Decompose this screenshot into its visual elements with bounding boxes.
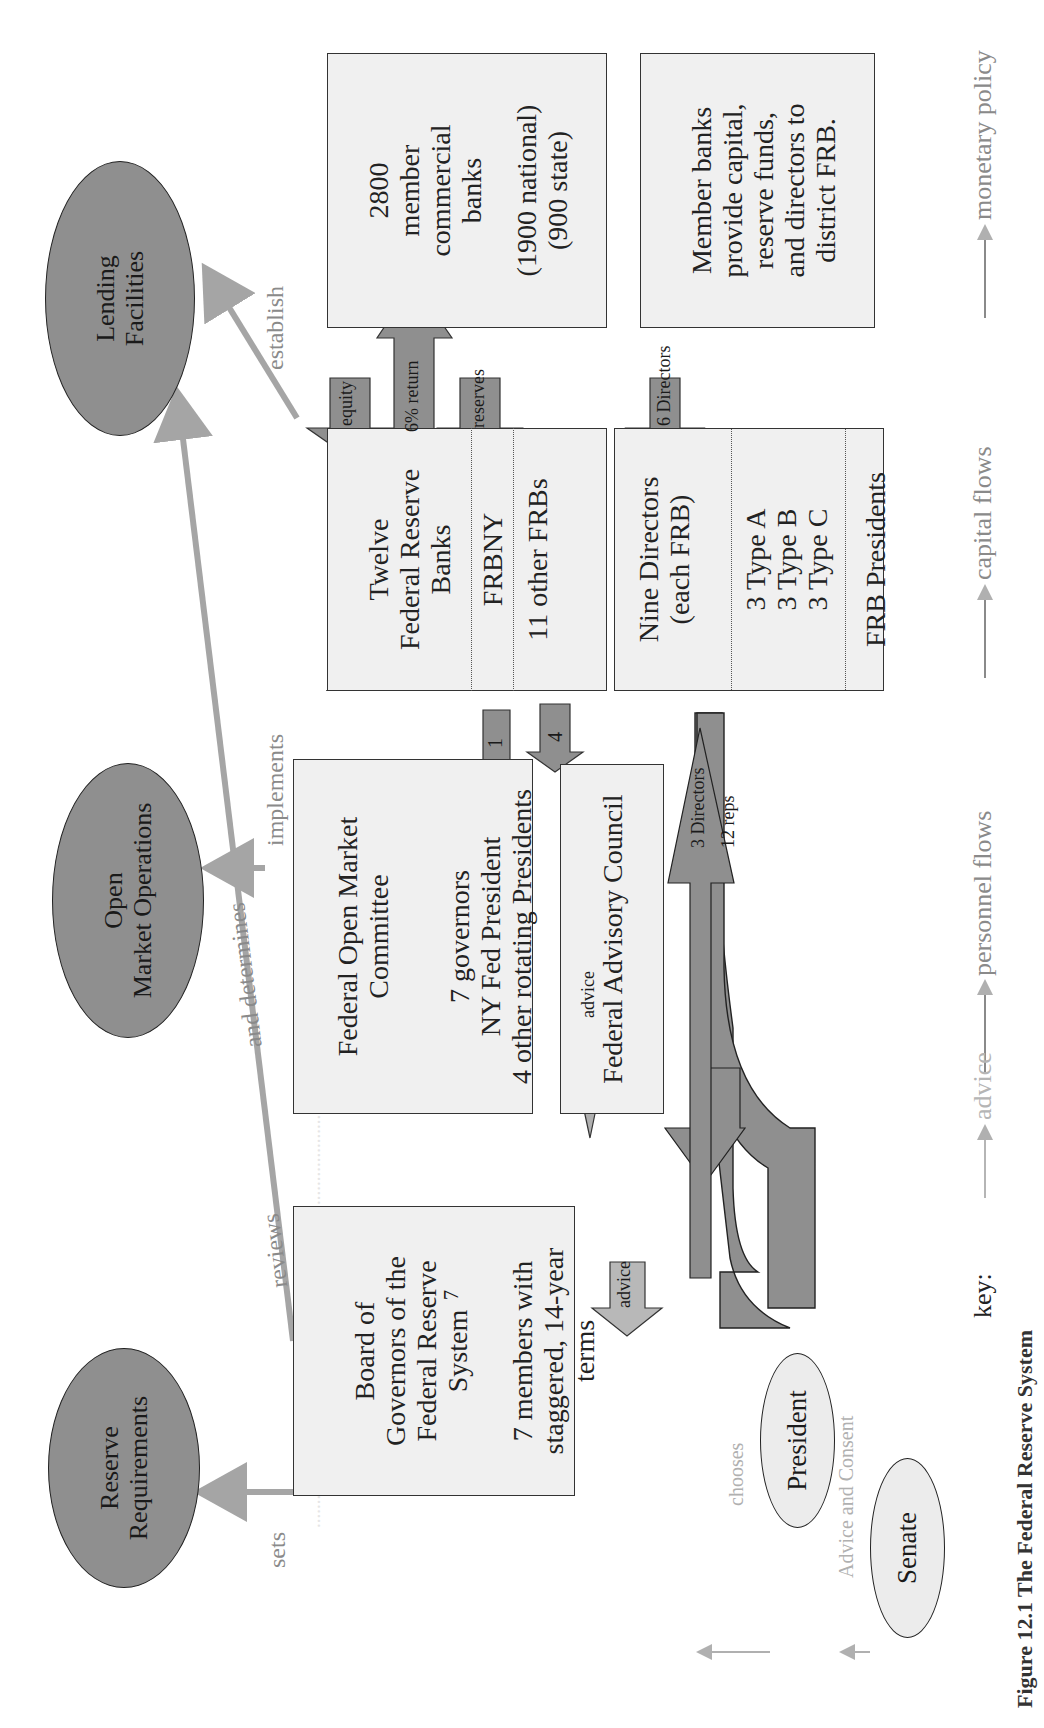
- member-note-line: district FRB.: [810, 54, 841, 327]
- fomc-title-line: Federal Open Market: [332, 760, 363, 1113]
- frb-subdivision-box: [327, 428, 607, 691]
- nine-directors-box: Nine Directors (each FRB) 3 Type A 3 Typ…: [614, 428, 884, 691]
- rotated-figure-page: ........................................…: [0, 0, 1044, 1728]
- fomc-detail-line: 7 governors: [444, 760, 475, 1113]
- reserve-requirements-ellipse: Reserve Requirements: [48, 1348, 200, 1588]
- board-title-line: Federal Reserve: [411, 1207, 442, 1495]
- directors-type-b: 3 Type B: [771, 429, 802, 690]
- member-banks-note-box: Member banks provide capital, reserve fu…: [640, 53, 875, 328]
- figure-caption: Figure 12.1 The Federal Reserve System: [1012, 1330, 1038, 1708]
- president-label: President: [782, 1390, 813, 1491]
- senate-ellipse: Senate: [870, 1458, 945, 1638]
- directors-title-line: Nine Directors: [633, 429, 664, 690]
- board-of-governors-box: Board of Governors of the Federal Reserv…: [293, 1206, 575, 1496]
- label-advice-fomc: advice: [578, 971, 599, 1018]
- member-banks-title-line: commercial: [425, 54, 456, 327]
- label-chooses: chooses: [725, 1443, 748, 1506]
- lending-facilities-ellipse: Lending Facilities: [45, 161, 195, 436]
- member-note-line: provide capital,: [717, 54, 748, 327]
- label-arrow-4: 4: [544, 732, 567, 742]
- board-detail-line: staggered, 14-year: [538, 1207, 569, 1495]
- label-reserves: reserves: [468, 369, 489, 428]
- member-note-line: and directors to: [779, 54, 810, 327]
- key-capital-label: capital flows: [968, 446, 998, 580]
- member-banks-detail-line: (900 state): [542, 54, 573, 327]
- lending-facilities-line-1: Lending: [91, 251, 120, 346]
- other-frbs-section: 11 other FRBs: [514, 428, 560, 691]
- federal-advisory-council-label: Federal Advisory Council: [597, 794, 628, 1083]
- label-arrow-1: 1: [484, 738, 507, 748]
- other-frbs-label: 11 other FRBs: [522, 478, 553, 640]
- member-banks-title-line: member: [394, 54, 425, 327]
- label-implements: implements: [262, 734, 289, 846]
- member-banks-title-line: 2800: [363, 54, 394, 327]
- label-establish: establish: [262, 286, 289, 370]
- fomc-detail-line: NY Fed President: [475, 760, 506, 1113]
- label-arrow-7: 7: [440, 1290, 463, 1300]
- open-market-operations-line-1: Open: [99, 803, 128, 999]
- open-market-operations-line-2: Market Operations: [128, 803, 157, 999]
- reserve-requirements-line-2: Requirements: [124, 1396, 153, 1540]
- label-six-directors: 6 Directors: [654, 346, 675, 426]
- key-title: key:: [968, 1273, 998, 1318]
- key-advice-label: advice: [968, 1052, 998, 1120]
- label-advice-and-consent: Advice and Consent: [835, 1416, 858, 1578]
- member-banks-detail-line: (1900 national): [511, 54, 542, 327]
- president-ellipse: President: [760, 1353, 835, 1528]
- directors-type-a: 3 Type A: [740, 429, 771, 690]
- fomc-detail-line: 4 other rotating Presidents: [506, 760, 537, 1113]
- directors-title-line: (each FRB): [664, 429, 695, 690]
- member-note-line: reserve funds,: [748, 54, 779, 327]
- fomc-box: Federal Open Market Committee 7 governor…: [293, 759, 533, 1114]
- member-note-line: Member banks: [686, 54, 717, 327]
- label-sets: sets: [264, 1532, 291, 1568]
- board-title-line: Board of: [349, 1207, 380, 1495]
- frbny-label: FRBNY: [477, 513, 508, 606]
- directors-type-c: 3 Type C: [802, 429, 833, 690]
- frb-presidents-label: FRB Presidents: [860, 429, 891, 690]
- frbny-section: FRBNY: [471, 428, 514, 691]
- label-three-directors: 3 Directors: [688, 768, 709, 848]
- federal-advisory-council-box: Federal Advisory Council: [560, 764, 664, 1114]
- label-twelve-reps: 12 reps: [718, 796, 739, 849]
- senate-label: Senate: [892, 1512, 923, 1584]
- fomc-title-line: Committee: [363, 760, 394, 1113]
- key-monetary-label: monetary policy: [968, 50, 998, 220]
- reserve-requirements-line-1: Reserve: [95, 1396, 124, 1540]
- open-market-operations-ellipse: Open Market Operations: [52, 763, 204, 1038]
- label-return: 6% return: [402, 361, 423, 432]
- board-title-line: System: [442, 1207, 473, 1495]
- board-detail-line: terms: [569, 1207, 600, 1495]
- key-personnel-label: personnel flows: [968, 811, 998, 976]
- member-banks-title-line: banks: [456, 54, 487, 327]
- board-title-line: Governors of the: [380, 1207, 411, 1495]
- label-advice-board: advice: [614, 1261, 635, 1308]
- label-equity: equity: [336, 381, 357, 426]
- lending-facilities-line-2: Facilities: [120, 251, 149, 346]
- divider-frbny: [326, 690, 327, 691]
- board-detail-line: 7 members with: [507, 1207, 538, 1495]
- member-banks-box: 2800 member commercial banks (1900 natio…: [327, 53, 607, 328]
